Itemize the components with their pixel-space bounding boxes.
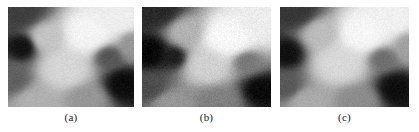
panel-caption-a: (a) xyxy=(8,110,134,124)
figure-panel-a: (a) xyxy=(8,0,134,132)
figure-panel-b: (b) xyxy=(142,0,271,132)
panel-caption-c: (c) xyxy=(280,110,409,124)
grayscale-field-image-c xyxy=(280,7,409,107)
grayscale-field-image-b xyxy=(142,7,271,107)
grayscale-field-image-a xyxy=(8,7,134,107)
panel-caption-b: (b) xyxy=(142,110,271,124)
image-panel-b xyxy=(142,7,271,107)
image-panel-a xyxy=(8,7,134,107)
figure-panel-c: (c) xyxy=(280,0,409,132)
figure-root: (a) (b) (c) xyxy=(0,0,419,132)
image-panel-c xyxy=(280,7,409,107)
